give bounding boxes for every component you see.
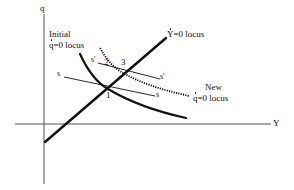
q-dot-symbol: q	[49, 41, 54, 50]
new-q-dot-locus-text: =0 locus	[198, 93, 229, 103]
initial-q-dot-locus-text: =0 locus	[54, 40, 85, 50]
y-dot-locus-label: Y=0 locus	[167, 30, 204, 39]
saddle-path-s-prime-label-right: s'	[160, 73, 165, 81]
y-dot-locus-text: =0 locus	[174, 29, 205, 39]
initial-q-dot-locus-label-line2: q=0 locus	[49, 41, 84, 50]
phase-diagram: q Y Y=0 locus Initial q=0 locus New q=0 …	[0, 0, 294, 190]
new-q-dot-locus-label-line2: q=0 locus	[193, 94, 228, 103]
point-2-label: 2	[104, 58, 109, 67]
q-dot-symbol: q	[193, 94, 198, 103]
point-3-label: 3	[121, 58, 126, 67]
initial-q-dot-locus-label-line1: Initial	[49, 30, 71, 39]
diagram-canvas	[0, 0, 294, 190]
y-dot-symbol: Y	[167, 30, 174, 39]
new-q-dot-locus-label-line1: New	[205, 83, 222, 92]
point-1-label: 1	[106, 91, 111, 100]
saddle-path-s-prime-label-left: s'	[91, 56, 96, 64]
saddle-path-s-label-right: s	[156, 91, 159, 99]
y-axis-label: Y	[273, 119, 280, 128]
saddle-path-s-label-left: s	[57, 70, 60, 78]
q-axis-label: q	[40, 4, 45, 13]
